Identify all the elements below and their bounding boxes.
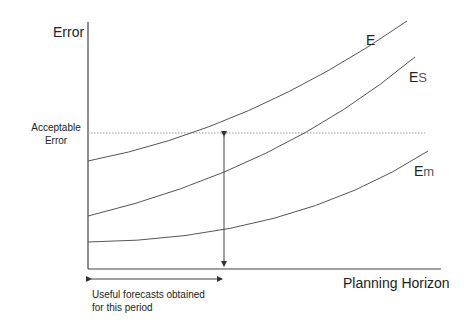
acceptable-error-label: Acceptable Error [24,121,88,147]
curve-es [88,57,415,216]
curve-em [88,151,428,242]
useful-forecasts-annotation: Useful forecasts obtained for this perio… [92,288,205,314]
curve-es-label-main: E [409,69,418,85]
curve-e-label: E [366,32,375,48]
curve-e [88,21,407,161]
curve-es-label-sub: S [418,70,427,85]
curve-em-label-main: E [414,163,423,179]
annotation-line1: Useful forecasts obtained [92,288,205,301]
curve-es-label: ES [409,69,427,85]
annotation-line2: for this period [92,301,205,314]
curve-em-label: Em [414,163,434,179]
acceptable-error-label-line2: Error [24,134,88,147]
curve-em-label-sub: m [423,164,434,179]
x-axis-label: Planning Horizon [343,275,450,291]
y-axis-label: Error [53,24,84,40]
curve-e-label-main: E [366,32,375,48]
acceptable-error-label-line1: Acceptable [24,121,88,134]
